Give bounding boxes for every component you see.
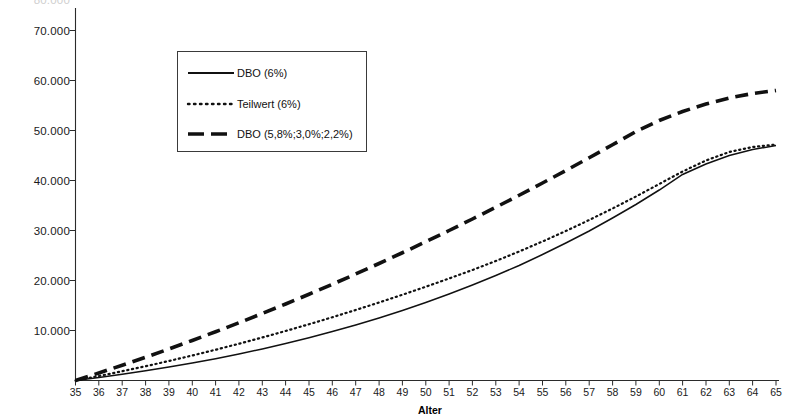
x-axis-tick-label: 37 <box>116 386 128 398</box>
x-axis-tick-label: 49 <box>397 386 409 398</box>
x-axis-tick-label: 46 <box>326 386 338 398</box>
x-axis-tick-label: 65 <box>770 386 782 398</box>
x-axis-tick-label: 62 <box>700 386 712 398</box>
x-axis-tick-label: 50 <box>420 386 432 398</box>
y-axis-tick-marks <box>70 31 76 331</box>
y-axis-tick-label: 70.000 <box>34 25 70 37</box>
x-axis-tick-label: 52 <box>467 386 479 398</box>
x-axis-tick-label: 55 <box>537 386 549 398</box>
y-axis-tick-label: 30.000 <box>34 225 70 237</box>
chart-container: 80.000 10.00020.00030.00040.00050.00060.… <box>0 0 797 420</box>
y-axis-tick-label: 50.000 <box>34 125 70 137</box>
x-axis-tick-label: 61 <box>677 386 689 398</box>
clipped-top-ytick-label: 80.000 <box>34 0 70 6</box>
x-axis-tick-label: 40 <box>186 386 198 398</box>
x-axis-tick-label: 57 <box>583 386 595 398</box>
legend-label-teilwert-6: Teilwert (6%) <box>237 98 301 110</box>
x-axis-tick-label: 43 <box>256 386 268 398</box>
x-axis-tick-label: 39 <box>163 386 175 398</box>
x-axis-tick-label: 56 <box>560 386 572 398</box>
x-axis-tick-label: 48 <box>373 386 385 398</box>
x-axis-tick-label: 45 <box>303 386 315 398</box>
legend-label-dbo-mixed: DBO (5,8%;3,0%;2,2%) <box>237 128 353 140</box>
x-axis-tick-label: 64 <box>747 386 759 398</box>
x-axis-tick-label: 54 <box>513 386 525 398</box>
y-axis-tick-label: 60.000 <box>34 75 70 87</box>
legend-label-dbo-6: DBO (6%) <box>237 67 287 79</box>
x-axis-tick-label: 44 <box>280 386 292 398</box>
y-axis-tick-label: 10.000 <box>34 325 70 337</box>
x-axis-tick-label: 47 <box>350 386 362 398</box>
ghost-ytick-label: 80.000 <box>34 0 70 6</box>
x-axis-tick-label: 35 <box>70 386 82 398</box>
line-chart: 80.000 10.00020.00030.00040.00050.00060.… <box>0 0 797 420</box>
x-axis-tick-label: 60 <box>653 386 665 398</box>
x-axis-tick-label: 42 <box>233 386 245 398</box>
x-axis-tick-label: 36 <box>93 386 105 398</box>
chart-legend: DBO (6%) Teilwert (6%) DBO (5,8%;3,0%;2,… <box>178 52 367 152</box>
x-axis-tick-marks <box>76 381 777 386</box>
y-axis-tick-labels: 10.00020.00030.00040.00050.00060.00070.0… <box>34 25 70 337</box>
x-axis-tick-label: 51 <box>443 386 455 398</box>
y-axis-tick-label: 40.000 <box>34 175 70 187</box>
x-axis-tick-label: 59 <box>630 386 642 398</box>
x-axis-tick-label: 38 <box>140 386 152 398</box>
x-axis-tick-labels: 3536373839404142434445464748495051525354… <box>70 386 782 398</box>
y-axis-tick-label: 20.000 <box>34 275 70 287</box>
x-axis-tick-label: 63 <box>723 386 735 398</box>
x-axis-tick-label: 58 <box>607 386 619 398</box>
x-axis-tick-label: 53 <box>490 386 502 398</box>
x-axis-title: Alter <box>418 404 442 416</box>
x-axis-tick-label: 41 <box>210 386 222 398</box>
